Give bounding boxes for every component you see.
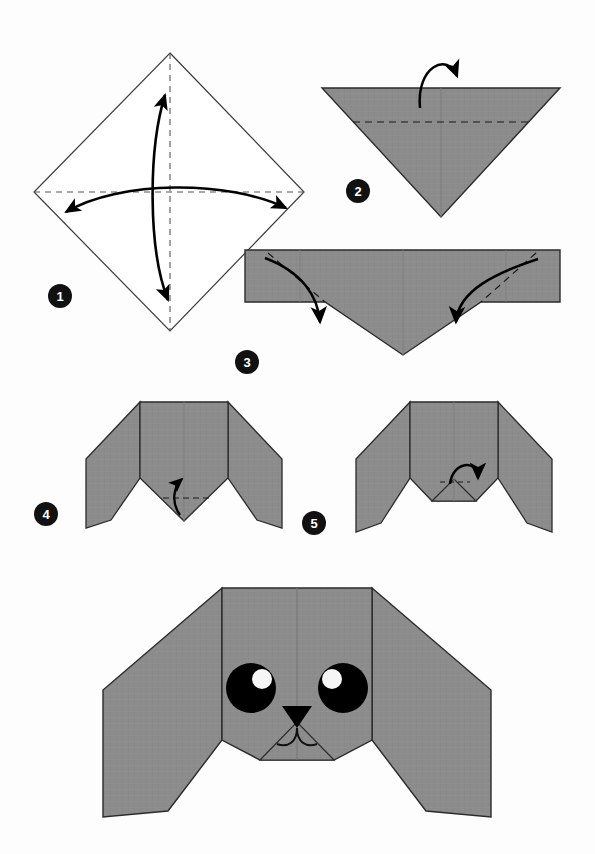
final-right-eye	[318, 663, 368, 713]
step-5-badge: 5	[302, 511, 326, 535]
step-4-right-ear	[228, 402, 282, 528]
final-model-figure	[103, 588, 491, 817]
step-3-figure	[245, 250, 560, 355]
step-1-badge: 1	[48, 284, 72, 308]
step-4-left-ear	[86, 402, 140, 528]
step-4-badge: 4	[34, 502, 58, 526]
step-2-badge: 2	[346, 179, 370, 203]
step-4-figure	[86, 402, 282, 528]
step-3-badge: 3	[235, 350, 259, 374]
origami-instruction-diagram: 1 2 3	[0, 0, 595, 854]
final-left-ear	[103, 588, 222, 817]
final-right-eye-highlight	[322, 669, 342, 689]
final-left-eye-highlight	[252, 669, 272, 689]
final-right-ear	[372, 588, 491, 817]
step-5-left-ear	[356, 402, 410, 532]
step-5-right-ear	[498, 402, 552, 532]
final-left-eye	[226, 663, 276, 713]
step-5-figure	[356, 402, 552, 532]
instruction-sheet: 1 2 3	[0, 0, 595, 854]
